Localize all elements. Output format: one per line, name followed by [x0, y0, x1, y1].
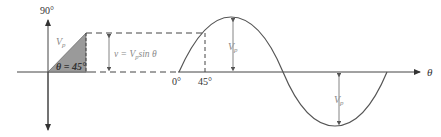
label-angle: θ = 45° — [56, 61, 86, 72]
label-phasor: Vp — [56, 36, 66, 49]
label-theta-axis: θ — [427, 66, 433, 78]
label-45deg: 45° — [198, 76, 212, 87]
phasor-sine-diagram: 90° Vp θ = 45° v = Vpsin θ 0° 45° Vp Vp … — [0, 0, 441, 137]
label-0deg: 0° — [172, 76, 181, 87]
label-90deg: 90° — [40, 5, 54, 16]
label-instantaneous: v = Vpsin θ — [114, 49, 157, 60]
